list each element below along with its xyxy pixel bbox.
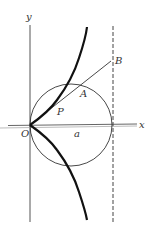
origin-label: O [21, 128, 29, 139]
x-axis-label: x [139, 119, 145, 130]
cissoid-lower-branch [30, 125, 87, 220]
point-a-label: A [79, 88, 87, 99]
radius-a-label: a [74, 128, 80, 139]
point-b-label: B [114, 55, 122, 66]
y-axis-label: y [25, 11, 32, 22]
point-p-label: P [56, 106, 64, 117]
cissoid-diagram: y x O P A B a [0, 0, 153, 235]
x-axis [8, 124, 137, 126]
